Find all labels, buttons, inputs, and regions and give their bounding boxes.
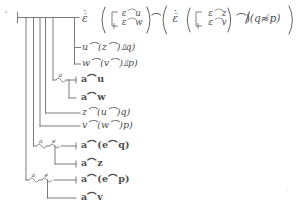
premise-row-aeq: a⌒(e⌒q)	[81, 140, 130, 150]
premise-row-au: a⌒u	[81, 74, 104, 84]
brace-curve-a-3	[29, 178, 39, 182]
stack-2: ε⌒z ε⌒v	[200, 9, 226, 28]
brace-label-e-2: e	[45, 171, 49, 178]
negation-bar-1: )	[246, 13, 250, 24]
premise-row-z: z⌒(u⌒)q)	[82, 107, 130, 117]
paren-close-2	[289, 6, 293, 34]
proof-diagram-canvas: ʟ ʼ ε̇ ε⌒u ε⌒w ⌒ε̇ ε⌒z ε⌒v ⌒)(q≉p) u⌒(z⌒…	[0, 0, 305, 210]
brace-label-e-1: e	[52, 137, 56, 144]
corner-mark-top-left: ʟ	[5, 8, 8, 14]
premise-row-aep: a⌒(e⌒p)	[81, 174, 130, 184]
inference-rail-lines	[0, 0, 305, 210]
stack-1: ε⌒u ε⌒w	[114, 9, 143, 28]
connector-2: ⌒	[236, 12, 246, 24]
brace-label-a-2: a	[39, 137, 43, 144]
premise-row-w: w⌒(v⌒)⫫p)	[82, 58, 138, 68]
premise-row-av: a⌒v	[81, 192, 103, 202]
brace-curve-e-2	[42, 178, 52, 182]
conclusion-tail: (q≉p)	[250, 12, 280, 24]
connector-1: ⌒	[151, 12, 161, 24]
epsilon-abstractor-1: ε̇	[82, 13, 88, 24]
premise-row-u: u⌒(z⌒)⫫q)	[82, 42, 135, 52]
brace-label-a-3: a	[32, 171, 36, 178]
brace-curve-a-1	[56, 78, 66, 82]
corner-mark-bottom-right: ʼ	[286, 188, 288, 194]
stack-1-lower: ε⌒w	[114, 18, 143, 28]
stack-2-lower: ε⌒v	[200, 18, 226, 28]
premise-row-v: v⌒(w⌒)p)	[82, 120, 133, 130]
epsilon-abstractor-2: ε̇	[173, 13, 179, 24]
brace-curve-e-1	[50, 144, 60, 148]
brace-curve-a-2	[37, 144, 47, 148]
premise-row-aw: a⌒w	[81, 92, 106, 102]
conclusion-row: ε̇ ε⌒u ε⌒w ⌒ε̇ ε⌒z ε⌒v ⌒)(q≉p)	[82, 9, 280, 28]
brace-label-a-1: a	[59, 71, 63, 78]
premise-row-az: a⌒z	[81, 158, 103, 168]
